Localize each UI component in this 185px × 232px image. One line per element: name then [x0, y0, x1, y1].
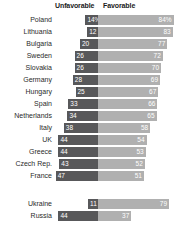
row-bars: 4437 [0, 211, 185, 221]
bar-unfavorable: 14% [85, 15, 98, 25]
row-bars: 2077 [0, 39, 185, 49]
row-bars: 2670 [0, 63, 185, 73]
bar-favorable: 37 [98, 211, 131, 221]
row-bars: 4453 [0, 147, 185, 157]
row-bars: 4454 [0, 135, 185, 145]
bar-value-favorable: 66 [148, 99, 155, 109]
bar-value-favorable: 69 [151, 75, 158, 85]
table-row: Greece4453 [0, 147, 185, 157]
bar-unfavorable: 44 [58, 135, 98, 145]
table-row: Russia4437 [0, 211, 185, 221]
row-bars: 1283 [0, 27, 185, 37]
bar-value-unfavorable: 11 [90, 199, 97, 209]
bar-favorable: 70 [98, 63, 161, 73]
bar-value-unfavorable: 44 [60, 135, 67, 145]
bar-value-favorable: 77 [158, 39, 165, 49]
bar-value-unfavorable: 20 [82, 39, 89, 49]
bar-value-unfavorable: 34 [69, 111, 76, 121]
table-row: France4751 [0, 171, 185, 181]
row-bars: 14%84% [0, 15, 185, 25]
diverging-bar-chart: Unfavorable Favorable Poland14%84%Lithua… [0, 0, 185, 232]
table-row: Netherlands3465 [0, 111, 185, 121]
bar-favorable: 69 [98, 75, 160, 85]
table-row: Lithuania1283 [0, 27, 185, 37]
bar-unfavorable: 26 [75, 63, 98, 73]
bar-value-favorable: 67 [149, 87, 156, 97]
bar-unfavorable: 12 [87, 27, 98, 37]
table-row: UK4454 [0, 135, 185, 145]
bar-favorable: 66 [98, 99, 157, 109]
bar-value-favorable: 58 [141, 123, 148, 133]
row-bars: 4751 [0, 171, 185, 181]
row-bars: 2672 [0, 51, 185, 61]
bar-value-unfavorable: 25 [78, 87, 85, 97]
bar-value-favorable: 79 [160, 199, 167, 209]
bar-value-favorable: 83 [163, 27, 170, 37]
bar-favorable: 51 [98, 171, 144, 181]
row-bars: 3858 [0, 123, 185, 133]
table-row: Sweden2672 [0, 51, 185, 61]
bar-favorable: 79 [98, 199, 169, 209]
row-bars: 4352 [0, 159, 185, 169]
chart-legend: Unfavorable Favorable [0, 2, 185, 13]
bar-value-favorable: 84% [159, 15, 172, 25]
bar-value-unfavorable: 44 [60, 211, 67, 221]
bar-value-unfavorable: 12 [89, 27, 96, 37]
bar-value-favorable: 37 [122, 211, 129, 221]
bar-value-unfavorable: 47 [58, 171, 65, 181]
bar-unfavorable: 33 [68, 99, 98, 109]
bar-value-unfavorable: 43 [61, 159, 68, 169]
bar-value-favorable: 53 [136, 147, 143, 157]
table-row: Poland14%84% [0, 15, 185, 25]
row-bars: 2869 [0, 75, 185, 85]
table-row: Slovakia2670 [0, 63, 185, 73]
bar-value-unfavorable: 26 [77, 51, 84, 61]
bar-value-unfavorable: 33 [70, 99, 77, 109]
row-bars: 3366 [0, 99, 185, 109]
row-bars: 1179 [0, 199, 185, 209]
bar-value-unfavorable: 44 [60, 147, 67, 157]
bar-favorable: 67 [98, 87, 158, 97]
bar-favorable: 83 [98, 27, 173, 37]
row-bars: 2567 [0, 87, 185, 97]
bar-favorable: 72 [98, 51, 163, 61]
bar-unfavorable: 44 [58, 147, 98, 157]
bar-favorable: 58 [98, 123, 150, 133]
bar-value-favorable: 65 [147, 111, 154, 121]
table-row: Hungary2567 [0, 87, 185, 97]
bar-favorable: 65 [98, 111, 157, 121]
table-row: Spain3366 [0, 99, 185, 109]
bar-unfavorable: 38 [64, 123, 98, 133]
bar-favorable: 54 [98, 135, 147, 145]
bar-unfavorable: 11 [88, 199, 98, 209]
bar-value-unfavorable: 38 [66, 123, 73, 133]
table-row: Czech Rep.4352 [0, 159, 185, 169]
bar-unfavorable: 34 [67, 111, 98, 121]
bar-unfavorable: 47 [56, 171, 98, 181]
bar-unfavorable: 26 [75, 51, 98, 61]
bar-value-favorable: 52 [136, 159, 143, 169]
bar-favorable: 52 [98, 159, 145, 169]
bar-value-favorable: 72 [154, 51, 161, 61]
bar-unfavorable: 44 [58, 211, 98, 221]
bar-favorable: 77 [98, 39, 167, 49]
table-row: Italy3858 [0, 123, 185, 133]
bar-value-favorable: 54 [137, 135, 144, 145]
bar-unfavorable: 28 [73, 75, 98, 85]
table-row: Bulgaria2077 [0, 39, 185, 49]
bar-unfavorable: 25 [76, 87, 99, 97]
bar-value-unfavorable: 26 [77, 63, 84, 73]
bar-value-unfavorable: 28 [75, 75, 82, 85]
bar-favorable: 53 [98, 147, 146, 157]
bar-value-favorable: 51 [135, 171, 142, 181]
table-row: Germany2869 [0, 75, 185, 85]
table-row: Ukraine1179 [0, 199, 185, 209]
legend-label-favorable: Favorable [103, 2, 135, 9]
bar-unfavorable: 43 [59, 159, 98, 169]
bar-value-favorable: 70 [152, 63, 159, 73]
row-bars: 3465 [0, 111, 185, 121]
bar-unfavorable: 20 [80, 39, 98, 49]
bar-favorable: 84% [98, 15, 174, 25]
legend-label-unfavorable: Unfavorable [55, 2, 94, 9]
